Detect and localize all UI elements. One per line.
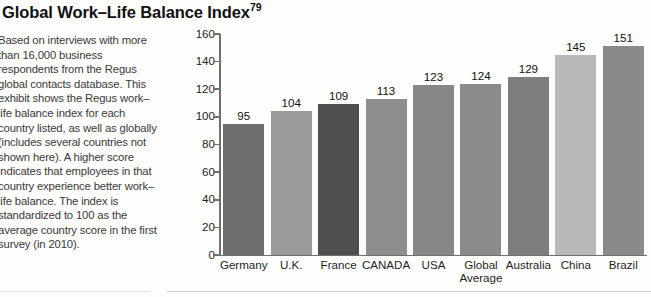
y-axis-tick-mark (213, 254, 220, 256)
bar-value-label: 129 (519, 62, 538, 75)
description-paragraph: Based on interviews with more than 16,00… (0, 33, 158, 252)
bar-column[interactable]: 124 (460, 34, 501, 255)
bar[interactable] (413, 85, 454, 255)
x-axis-label: Global Average (454, 258, 507, 285)
exhibit-bottom-rule (167, 291, 651, 292)
x-axis-label: Australia (502, 258, 555, 271)
x-axis-label: Germany (217, 258, 270, 271)
y-axis-tick-mark (213, 88, 220, 90)
y-axis-tick-mark (213, 227, 220, 229)
bar[interactable] (460, 84, 501, 255)
bar-value-label: 113 (377, 84, 395, 97)
exhibit-left-rule (0, 291, 150, 292)
title-footnote-marker: 79 (250, 1, 261, 13)
bar[interactable] (508, 77, 549, 255)
bar-value-label: 123 (424, 70, 443, 83)
bar-chart: 020406080100120140160 951041091131231241… (186, 34, 648, 256)
bar[interactable] (223, 124, 264, 255)
y-axis-tick-mark (213, 61, 220, 63)
bar-value-label: 104 (281, 96, 300, 109)
x-axis-label: Brazil (597, 258, 650, 271)
bar-column[interactable]: 145 (555, 34, 596, 255)
x-axis-label: USA (407, 258, 460, 271)
x-axis-label: China (549, 258, 602, 271)
bar-series: 95104109113123124129145151 (220, 34, 647, 255)
bar[interactable] (366, 99, 407, 255)
x-axis-label: U.K. (264, 258, 317, 271)
page-title: Global Work–Life Balance Index79 (2, 1, 261, 22)
bar-column[interactable]: 104 (271, 34, 312, 255)
bar[interactable] (603, 46, 644, 255)
exhibit-container: Global Work–Life Balance Index79 Based o… (0, 0, 651, 297)
title-text: Global Work–Life Balance Index (2, 3, 250, 21)
y-axis-tick-mark (213, 116, 220, 118)
bar-value-label: 151 (614, 31, 633, 44)
bar-column[interactable]: 109 (318, 34, 359, 255)
bar-column[interactable]: 151 (603, 34, 644, 255)
bar[interactable] (271, 111, 312, 255)
x-axis-label: France (312, 258, 365, 271)
bar-column[interactable]: 129 (508, 34, 549, 255)
bar-column[interactable]: 95 (223, 34, 264, 255)
bar-value-label: 95 (237, 109, 250, 122)
bar-value-label: 145 (566, 40, 585, 53)
bar[interactable] (318, 104, 359, 255)
x-axis-label: CANADA (359, 258, 412, 271)
bar-value-label: 109 (329, 89, 348, 102)
y-axis-tick-mark (213, 144, 220, 146)
bar-column[interactable]: 113 (366, 34, 407, 255)
y-axis-tick-mark (213, 199, 220, 201)
y-axis-tick-mark (213, 171, 220, 173)
y-axis-tick-mark (213, 33, 220, 35)
bar-column[interactable]: 123 (413, 34, 454, 255)
bar-value-label: 124 (471, 69, 490, 82)
bar[interactable] (555, 55, 596, 255)
